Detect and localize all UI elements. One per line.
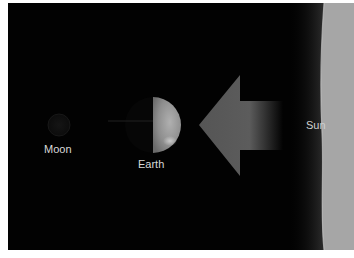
earth-label: Earth: [138, 158, 164, 170]
sunlight-arrow-icon: [199, 75, 283, 176]
moon-label: Moon: [44, 143, 72, 155]
earth-shape: [108, 97, 181, 153]
moon-shape: [48, 114, 70, 136]
diagram-graphics: [8, 3, 354, 250]
diagram-canvas: Moon Earth Sun: [8, 3, 354, 250]
sun-label: Sun: [306, 119, 326, 131]
bottom-border: [0, 250, 354, 258]
